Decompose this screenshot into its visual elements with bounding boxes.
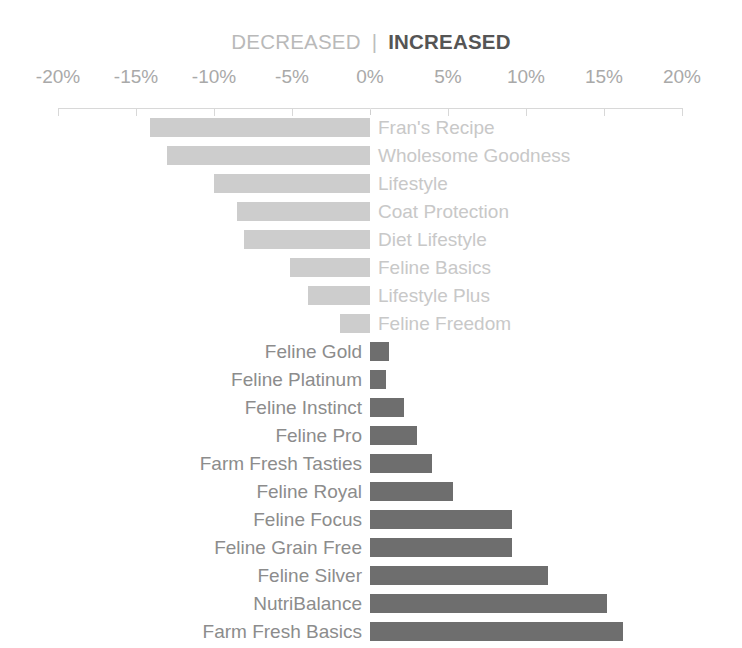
bar-row[interactable]: Farm Fresh Tasties <box>0 450 742 478</box>
bar-row[interactable]: Wholesome Goodness <box>0 142 742 170</box>
bar-row[interactable]: Feline Royal <box>0 478 742 506</box>
bar-label: Farm Fresh Tasties <box>200 451 362 476</box>
bar-decreased[interactable] <box>237 202 370 221</box>
bar-rows: Fran's RecipeWholesome GoodnessLifestyle… <box>0 0 742 648</box>
bar-increased[interactable] <box>370 454 432 473</box>
bar-row[interactable]: Diet Lifestyle <box>0 226 742 254</box>
bar-row[interactable]: NutriBalance <box>0 590 742 618</box>
bar-label: Feline Instinct <box>245 395 362 420</box>
bar-label: Feline Silver <box>257 563 362 588</box>
bar-label: Feline Royal <box>256 479 362 504</box>
zero-reference-line <box>370 108 371 110</box>
bar-increased[interactable] <box>370 538 512 557</box>
bar-row[interactable]: Fran's Recipe <box>0 114 742 142</box>
bar-label: Feline Pro <box>275 423 362 448</box>
bar-increased[interactable] <box>370 342 389 361</box>
bar-decreased[interactable] <box>150 118 370 137</box>
bar-label: Lifestyle <box>378 171 448 196</box>
bar-label: Feline Basics <box>378 255 491 280</box>
bar-row[interactable]: Feline Freedom <box>0 310 742 338</box>
bar-label: Farm Fresh Basics <box>203 619 362 644</box>
bar-label: Diet Lifestyle <box>378 227 487 252</box>
bar-label: Feline Freedom <box>378 311 511 336</box>
bar-label: Feline Grain Free <box>214 535 362 560</box>
bar-row[interactable]: Feline Focus <box>0 506 742 534</box>
bar-row[interactable]: Coat Protection <box>0 198 742 226</box>
bar-row[interactable]: Feline Pro <box>0 422 742 450</box>
bar-label: Lifestyle Plus <box>378 283 490 308</box>
bar-decreased[interactable] <box>340 314 370 333</box>
bar-label: Coat Protection <box>378 199 509 224</box>
bar-label: Fran's Recipe <box>378 115 495 140</box>
bar-row[interactable]: Farm Fresh Basics <box>0 618 742 646</box>
bar-decreased[interactable] <box>290 258 370 277</box>
bar-row[interactable]: Lifestyle <box>0 170 742 198</box>
bar-increased[interactable] <box>370 482 453 501</box>
bar-row[interactable]: Feline Silver <box>0 562 742 590</box>
bar-increased[interactable] <box>370 622 623 641</box>
bar-label: Feline Focus <box>253 507 362 532</box>
bar-label: NutriBalance <box>253 591 362 616</box>
bar-decreased[interactable] <box>214 174 370 193</box>
bar-row[interactable]: Feline Platinum <box>0 366 742 394</box>
bar-row[interactable]: Feline Grain Free <box>0 534 742 562</box>
bar-increased[interactable] <box>370 398 404 417</box>
bar-label: Feline Gold <box>265 339 362 364</box>
bar-increased[interactable] <box>370 594 607 613</box>
bar-decreased[interactable] <box>167 146 370 165</box>
bar-row[interactable]: Feline Gold <box>0 338 742 366</box>
bar-row[interactable]: Lifestyle Plus <box>0 282 742 310</box>
bar-decreased[interactable] <box>244 230 370 249</box>
bar-increased[interactable] <box>370 566 548 585</box>
bar-row[interactable]: Feline Instinct <box>0 394 742 422</box>
bar-label: Wholesome Goodness <box>378 143 570 168</box>
bar-increased[interactable] <box>370 426 417 445</box>
bar-increased[interactable] <box>370 370 386 389</box>
bar-increased[interactable] <box>370 510 512 529</box>
bar-label: Feline Platinum <box>231 367 362 392</box>
bar-row[interactable]: Feline Basics <box>0 254 742 282</box>
bar-decreased[interactable] <box>308 286 370 305</box>
diverging-bar-chart: DECREASED|INCREASED -20%-15%-10%-5%0%5%1… <box>0 0 742 648</box>
